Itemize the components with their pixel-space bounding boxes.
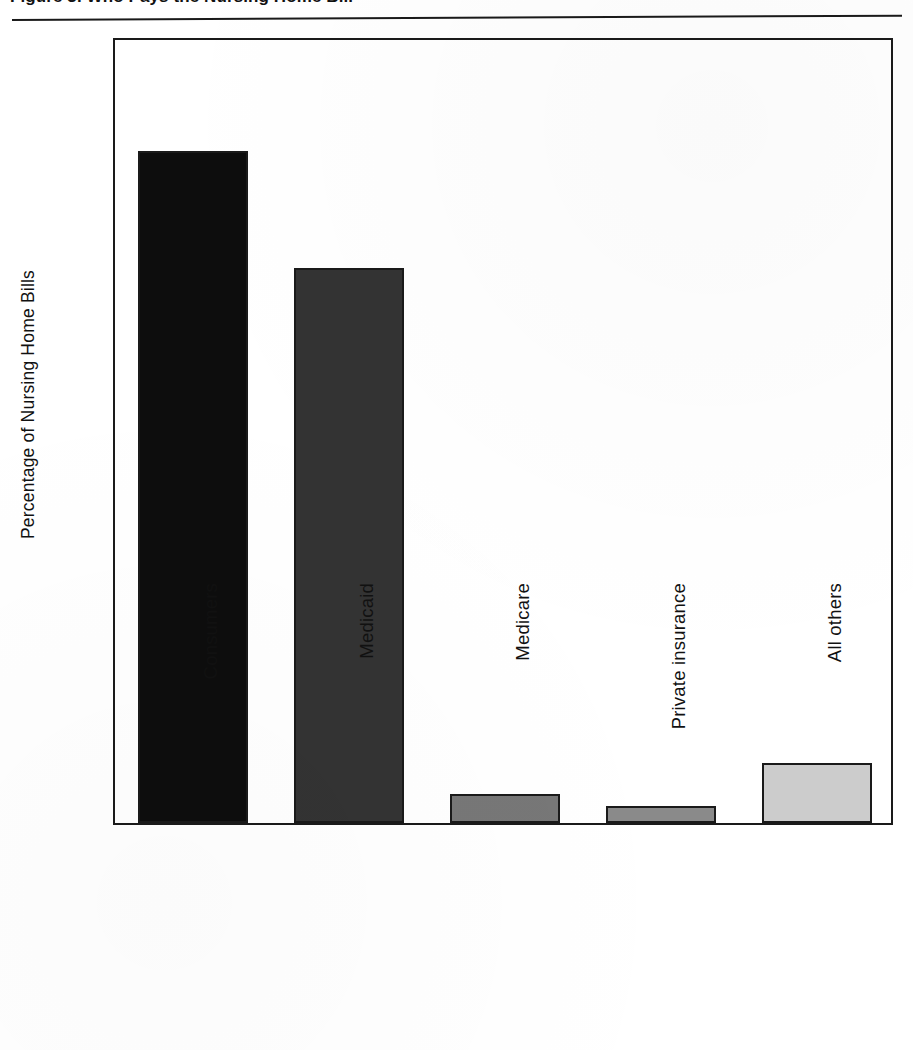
bar-consumers	[138, 151, 248, 823]
x-tick-label-all-others: All others	[824, 583, 846, 843]
bar-medicaid	[294, 268, 404, 823]
figure-container: Figure 3. Who Pays the Nursing Home Bill…	[0, 0, 913, 1050]
y-axis-title: Percentage of Nursing Home Bills	[18, 195, 39, 615]
plot-area	[113, 38, 893, 825]
figure-caption-text: Figure 3. Who Pays the Nursing Home Bill	[10, 0, 353, 7]
bar-medicare	[450, 794, 560, 823]
x-tick-label-consumers: Consumers	[200, 583, 222, 843]
x-tick-label-private-insurance: Private insurance	[668, 583, 690, 843]
figure-header: Figure 3. Who Pays the Nursing Home Bill	[0, 0, 913, 28]
x-tick-label-medicaid: Medicaid	[356, 583, 378, 843]
bar-all-others	[762, 763, 872, 823]
bar-private-insurance	[606, 806, 716, 823]
x-tick-label-medicare: Medicare	[512, 583, 534, 843]
